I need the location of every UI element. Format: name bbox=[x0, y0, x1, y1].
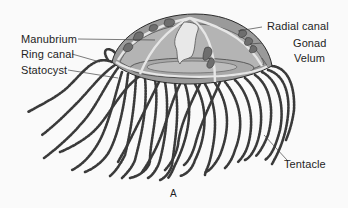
label-ring-canal: Ring canal bbox=[21, 48, 74, 60]
label-gonad: Gonad bbox=[293, 37, 327, 49]
label-tentacle: Tentacle bbox=[284, 158, 326, 170]
label-statocyst: Statocyst bbox=[21, 64, 67, 76]
diagram-canvas: Manubrium Ring canal Statocyst Radial ca… bbox=[0, 0, 348, 208]
bell bbox=[112, 14, 272, 84]
label-manubrium: Manubrium bbox=[21, 33, 77, 45]
label-radial-canal: Radial canal bbox=[267, 20, 329, 32]
label-velum: Velum bbox=[294, 52, 325, 64]
panel-label: A bbox=[170, 188, 177, 200]
